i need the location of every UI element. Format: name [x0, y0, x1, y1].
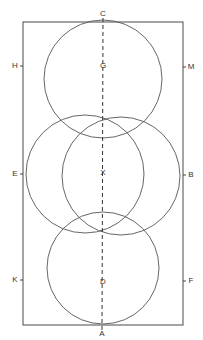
- label-f: F: [189, 276, 194, 285]
- label-g: G: [100, 61, 106, 70]
- label-a: A: [99, 329, 105, 338]
- label-x: X: [100, 168, 106, 177]
- label-c: C: [100, 9, 106, 18]
- label-h: H: [12, 61, 18, 70]
- label-k: K: [12, 275, 18, 284]
- geometric-diagram: C A H G M E X B K D F: [0, 0, 203, 340]
- circle-top-g: [44, 20, 162, 138]
- label-m: M: [188, 62, 195, 71]
- label-e: E: [12, 169, 17, 178]
- label-d: D: [100, 277, 106, 286]
- label-b: B: [188, 170, 193, 179]
